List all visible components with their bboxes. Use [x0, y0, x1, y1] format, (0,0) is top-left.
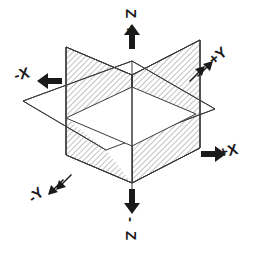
axis-label-z-positive-sign: +	[124, 17, 139, 43]
coordinate-system-diagram: Z + - Z -X +X +Y -Y	[0, 0, 264, 256]
arrow-down-left-icon	[48, 174, 72, 195]
axis-label-x-negative: -X	[12, 64, 30, 82]
axis-label-z-positive: Z +	[118, 6, 144, 38]
axis-label-z-negative-letter: Z	[124, 223, 139, 249]
arrow-left-icon	[37, 73, 62, 89]
axis-label-x-positive: +X	[217, 141, 239, 160]
axis-label-z-negative: - Z	[118, 211, 144, 243]
